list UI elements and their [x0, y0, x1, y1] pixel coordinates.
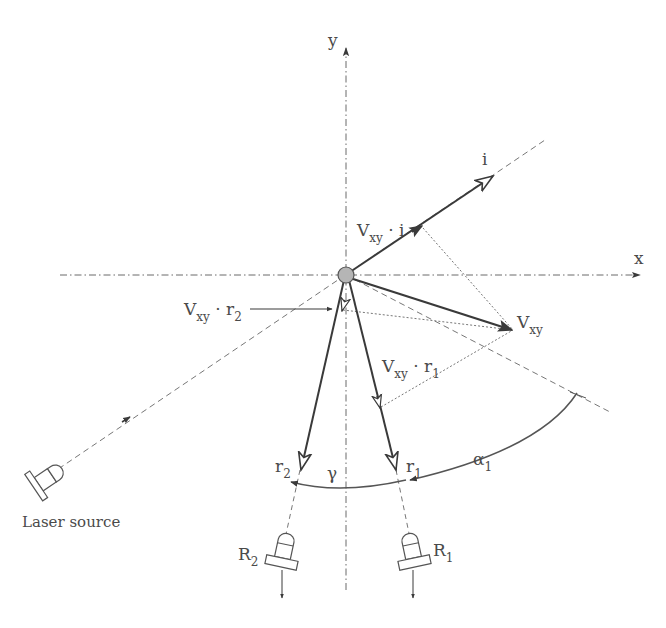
x-axis-label: x: [634, 248, 644, 268]
v-dot-i-label: Vxy · i: [356, 220, 405, 245]
velocity-vector-label: Vxy: [516, 312, 543, 337]
laser-doppler-diagram: y x i Vxy r2 r1 Vxy · i Vxy · r1 Vxy: [0, 0, 666, 628]
origin-particle: [338, 267, 354, 283]
projection-line-r2: [343, 310, 513, 330]
alpha1-tick: [570, 392, 586, 398]
r2-vector-label: r2: [275, 456, 291, 481]
alpha1-label: α1: [473, 449, 492, 474]
receiver-r2-label: R2: [238, 544, 258, 569]
velocity-vector: [350, 278, 512, 330]
laser-source-icon: [25, 455, 71, 501]
v-dot-r1-label: Vxy · r1: [381, 356, 440, 381]
receiver-r1-label: R1: [433, 540, 453, 565]
projection-line-i: [423, 228, 513, 330]
incident-vector: [350, 176, 493, 272]
incident-vector-label: i: [482, 149, 488, 169]
y-axis-label: y: [327, 30, 338, 50]
v-dot-r2-label: Vxy · r2: [183, 299, 242, 324]
gamma-label: γ: [327, 463, 337, 483]
receiver-r2-icon: [265, 530, 303, 570]
receiver-r1-icon: [393, 530, 431, 570]
velocity-direction-line: [346, 275, 610, 412]
v-dot-r2-marker-icon: [342, 300, 345, 311]
laser-source-label: Laser source: [22, 513, 120, 531]
alpha1-arc: [410, 393, 577, 480]
gamma-arc: [291, 480, 406, 488]
